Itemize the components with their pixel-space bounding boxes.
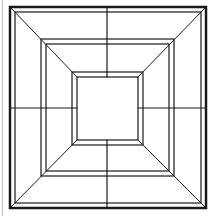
diagram-lines xyxy=(3,0,207,216)
corner-diagonal-2 xyxy=(11,140,77,207)
nested-squares-diagram xyxy=(0,0,213,216)
corner-diagonal-3 xyxy=(138,140,205,207)
corner-diagonal-0 xyxy=(11,8,77,77)
inner-square-fill xyxy=(78,78,138,140)
corner-diagonal-1 xyxy=(138,8,205,77)
